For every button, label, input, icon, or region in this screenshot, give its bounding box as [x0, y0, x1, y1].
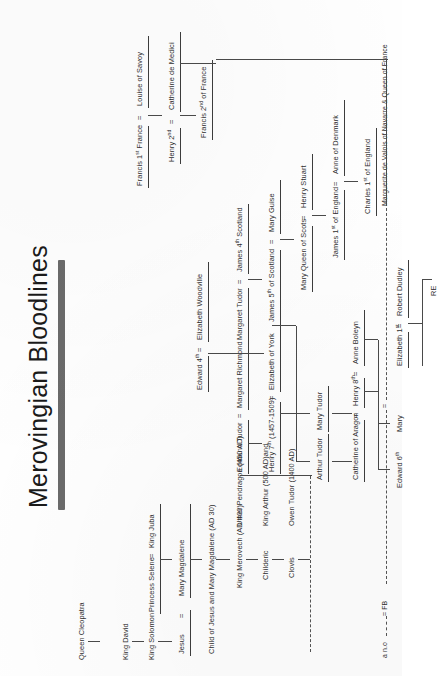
connector-solomon-down [158, 641, 172, 642]
node-elizabeth-woodville: Elizabeth Woodville [196, 274, 203, 340]
rule-francis-2 [212, 60, 213, 140]
node-edward-6-ordinal: th [394, 452, 400, 456]
rule-james-4 [248, 204, 249, 274]
rule-mary-queen-of-scots [312, 226, 313, 292]
connector-child-down [216, 559, 230, 560]
rule-elizabeth-1 [408, 332, 409, 368]
rule-henry-2 [180, 128, 181, 164]
node-charles-1-ordinal: st [362, 177, 368, 181]
node-james-1-name: James 1 [331, 229, 340, 258]
node-francis-1-ordinal: st [134, 151, 140, 155]
rule-james-5 [280, 250, 281, 324]
connector-to-elizabeth-1 [364, 339, 378, 340]
rule-edmund-tudor [248, 420, 249, 474]
node-edward-4: Edward 4th [196, 354, 203, 390]
node-margaret-richmond: Margaret Richmond [236, 341, 243, 408]
node-henry-2-ordinal: nd [166, 130, 172, 136]
node-henry-7: Henry 7th (1457-1509) [268, 398, 275, 473]
node-margaret-tudor-name: Margaret Tudor [235, 288, 244, 340]
node-james-1-tail: of England [331, 187, 340, 226]
node-elizabeth-of-york: Elizabeth of York [268, 333, 275, 390]
node-charles-1-name: Charles 1 [363, 181, 372, 214]
node-francis-2-ordinal: nd [198, 101, 204, 107]
footer-baseline [386, 60, 387, 206]
connector-to-re [422, 279, 432, 280]
rule-margaret-richmond [248, 334, 249, 410]
connector-henry7-down [280, 413, 296, 414]
connector-jesus-magdalene-down [190, 559, 202, 560]
node-king-david: King David [122, 623, 129, 660]
connector-mqs-stuart-down [312, 215, 326, 216]
node-king-solomon: King Solomon [148, 613, 155, 660]
node-henry-stuart: Henry Stuart [300, 165, 307, 208]
node-james-4-tail: Scotland [235, 207, 244, 239]
node-james-5-tail: of Scotland [267, 249, 276, 289]
node-francis-2-name: Francis 2 [199, 107, 208, 138]
rule-mary-tudor [328, 386, 329, 432]
node-king-juba: King Juba [148, 514, 155, 548]
node-edward-4-ordinal: th [194, 354, 200, 358]
connector-to-margaret-tudor [272, 325, 296, 326]
node-mary: Mary [396, 415, 403, 432]
marriage-equals-james1-anne: = [332, 182, 339, 186]
rule-elizabeth-woodville [208, 262, 209, 342]
node-eq-fb: = FB [382, 601, 389, 616]
connector-selene-juba-down [160, 559, 172, 560]
rule-jesus [190, 610, 191, 656]
marriage-equals-henry8-anne: = [352, 372, 359, 376]
connector-james1-anne-down [344, 181, 358, 182]
node-robert-dudley: Robert Dudley [396, 267, 403, 316]
marriage-equals-catherine-henry8: = [352, 414, 359, 418]
node-catherine-de-medici: Catherine de Medici [168, 42, 175, 110]
connector-to-arthur-tudor [296, 461, 310, 462]
node-james-1: James 1st of England [332, 187, 339, 258]
rule-catherine-de-medici [180, 32, 181, 112]
node-francis-1: Francis 1st France [136, 125, 143, 186]
node-arthur-tudor: Arthur Tudor [316, 438, 323, 480]
bus-henry7-children [296, 326, 297, 462]
node-elizabeth-1-name: Elizabeth 1 [395, 328, 404, 366]
node-queen-cleopatra: Queen Cleopatra [78, 602, 85, 660]
connector-margaret-james4-down [248, 279, 262, 280]
footer-dash-2 [386, 410, 387, 584]
rule-charles-1 [376, 128, 377, 216]
bus-elizabeth1-child [422, 280, 423, 366]
footer-right-riser [216, 59, 388, 60]
node-louise-of-savoy: Louise of Savoy [136, 52, 143, 106]
rule-mary-magdalene [190, 504, 191, 598]
rule-henry-8 [364, 378, 365, 408]
connector-elizabeth1-dudley-down [408, 323, 422, 324]
connector-cleopatra-down [88, 641, 100, 642]
node-catherine-of-aragon: Catherine of Aragon [352, 412, 359, 480]
spine-riser [240, 475, 312, 476]
marriage-equals-edward4-woodville: = [196, 348, 203, 352]
node-mary-magdalene: Mary Magdalene [178, 540, 185, 596]
node-james-4: James 4th Scotland [236, 207, 243, 272]
connector-childeric-down [272, 559, 284, 560]
node-francis-1-tail: France [135, 125, 144, 151]
node-james-1-ordinal: st [330, 225, 336, 229]
node-henry-2: Henry 2nd [168, 130, 175, 162]
marriage-equals-james5-guise: = [268, 240, 275, 244]
rule-henry-stuart [312, 154, 313, 210]
connector-to-mary [378, 423, 390, 424]
connector-francis1-louise-down [148, 115, 162, 116]
node-mary-guise: Mary Guise [268, 193, 275, 232]
connector-to-edward-6 [378, 469, 390, 470]
connector-edward4-to-elizabeth-york [208, 353, 264, 354]
rule-francis-1 [148, 126, 149, 188]
node-childeric: Childeric [262, 550, 269, 580]
connector-to-mary-tudor [296, 413, 310, 414]
node-eq-mid: = [382, 404, 389, 408]
rule-louise-of-savoy [148, 36, 149, 108]
node-princess-selene: Princess Selene [148, 557, 155, 612]
marriage-equals-mqs-stuart: = [300, 216, 307, 220]
node-james-4-ordinal: th [234, 239, 240, 243]
node-jesus: Jesus [178, 634, 185, 654]
marriage-equals-edmund-margaret: = [236, 414, 243, 418]
node-francis-1-name: Francis 1 [135, 155, 144, 186]
marriage-equals-henry7-elizabeth: = [268, 396, 275, 400]
bus-henry8-children [378, 340, 379, 470]
node-anne-boleyn: Anne Boleyn [352, 321, 359, 364]
